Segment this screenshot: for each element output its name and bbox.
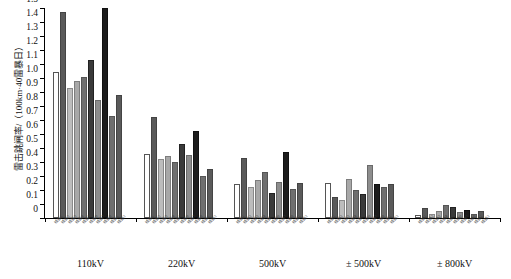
- x-tick: [318, 218, 319, 222]
- group-caption: ± 800kV: [409, 258, 500, 269]
- y-tick-label: 0.6: [14, 121, 38, 130]
- bar: [74, 81, 80, 218]
- y-tick-label: 1.0: [14, 65, 38, 74]
- y-tick-label: 0.4: [14, 149, 38, 158]
- y-axis-tick-labels: 1.51.41.31.21.11.00.90.80.70.60.50.40.30…: [14, 0, 38, 211]
- bar: [186, 155, 192, 218]
- bar: [172, 162, 178, 218]
- y-tick-label: 1.3: [14, 23, 38, 32]
- x-tick: [500, 218, 501, 222]
- bar: [53, 72, 59, 218]
- plot-area: [44, 8, 500, 218]
- bar: [179, 144, 185, 218]
- y-tick: [40, 8, 44, 9]
- y-tick-label: 0.8: [14, 93, 38, 102]
- bar-group: [138, 8, 229, 218]
- y-tick-label: 1.1: [14, 51, 38, 60]
- y-tick-label: 0.9: [14, 79, 38, 88]
- group-caption: 110kV: [45, 258, 136, 269]
- y-tick-label: 1.4: [14, 9, 38, 18]
- group-caption: 220kV: [136, 258, 227, 269]
- bar: [234, 184, 240, 218]
- bar: [193, 131, 199, 218]
- y-tick-label: 1.5: [14, 0, 38, 4]
- y-tick: [40, 92, 44, 93]
- y-tick-label: 0: [14, 205, 38, 214]
- bar-group: [319, 8, 410, 218]
- bar: [255, 180, 261, 218]
- y-tick: [40, 190, 44, 191]
- group-caption: 500kV: [227, 258, 318, 269]
- bar: [158, 159, 164, 218]
- bar: [81, 77, 87, 218]
- bar-group: [45, 8, 138, 218]
- bar: [102, 8, 108, 218]
- y-tick-label: 1.2: [14, 37, 38, 46]
- y-tick: [40, 106, 44, 107]
- y-tick: [40, 218, 44, 219]
- y-tick: [40, 176, 44, 177]
- bar-group: [228, 8, 319, 218]
- y-tick: [40, 162, 44, 163]
- y-tick: [40, 36, 44, 37]
- y-tick: [40, 64, 44, 65]
- bar: [67, 88, 73, 218]
- bar: [116, 95, 122, 218]
- bar: [200, 176, 206, 218]
- y-tick: [40, 22, 44, 23]
- bar: [88, 60, 94, 218]
- bar-group: [409, 8, 500, 218]
- x-tick: [227, 218, 228, 222]
- y-tick-label: 0.7: [14, 107, 38, 116]
- bar: [165, 156, 171, 218]
- bar-groups: [45, 8, 500, 218]
- bar: [95, 100, 101, 218]
- bar: [297, 183, 303, 218]
- bar: [367, 165, 373, 218]
- bar: [60, 12, 66, 218]
- chart-figure: 雷击跳闸率/（100km·40雷暴日） 1.51.41.31.21.11.00.…: [0, 0, 511, 279]
- bar: [241, 158, 247, 218]
- y-tick-label: 0.2: [14, 177, 38, 186]
- bar: [144, 154, 150, 218]
- bar: [346, 179, 352, 218]
- y-tick: [40, 78, 44, 79]
- bar: [151, 117, 157, 218]
- x-tick: [136, 218, 137, 222]
- y-tick: [40, 50, 44, 51]
- bar: [283, 152, 289, 218]
- bar: [325, 183, 331, 218]
- x-tick: [409, 218, 410, 222]
- group-caption: ± 500kV: [318, 258, 409, 269]
- y-tick: [40, 148, 44, 149]
- bar: [276, 182, 282, 218]
- y-tick-label: 0.3: [14, 163, 38, 172]
- bar: [109, 116, 115, 218]
- y-tick: [40, 134, 44, 135]
- bar: [207, 169, 213, 218]
- y-tick-label: 0.1: [14, 191, 38, 200]
- y-tick: [40, 204, 44, 205]
- bar: [262, 172, 268, 218]
- y-tick-label: 0.5: [14, 135, 38, 144]
- y-tick: [40, 120, 44, 121]
- x-tick: [45, 218, 46, 222]
